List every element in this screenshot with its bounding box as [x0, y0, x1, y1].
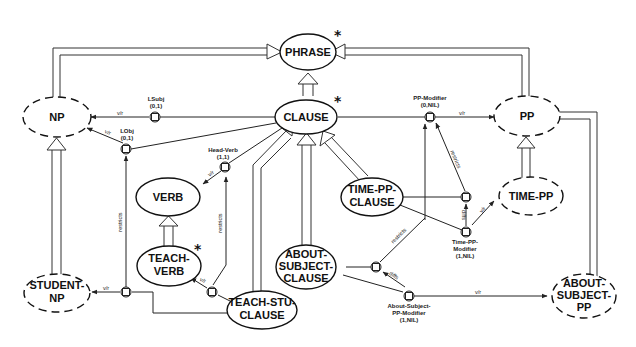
svg-text:NP: NP: [49, 111, 64, 123]
svg-text:PP: PP: [520, 110, 535, 122]
role-about-restrict: [371, 262, 381, 272]
svg-text:ABOUT-: ABOUT-: [285, 248, 328, 260]
star-icon: *: [334, 93, 342, 109]
role-lobj: [121, 144, 131, 154]
svg-text:CLAUSE: CLAUSE: [283, 272, 328, 284]
svg-text:(1,NIL): (1,NIL): [400, 317, 419, 323]
role-lsubj: [150, 112, 160, 122]
svg-text:diffs: diffs: [461, 210, 467, 220]
svg-text:Head-Verb: Head-Verb: [208, 147, 238, 153]
node-teach-verb: TEACH- VERB *: [137, 241, 202, 286]
node-about-subject-clause: ABOUT- SUBJECT- CLAUSE: [276, 245, 336, 289]
svg-text:PP-Modifier: PP-Modifier: [392, 310, 426, 316]
role-time-pp-modifier: [461, 227, 471, 237]
svg-text:restricts: restricts: [217, 213, 223, 233]
svg-text:Time-PP-: Time-PP-: [452, 239, 478, 245]
kl-one-diagram: PHRASE * CLAUSE * NP PP VERB TEACH- VERB…: [0, 0, 636, 347]
role-time-restrict: [461, 192, 471, 202]
node-teach-stu-clause: TEACH-STU- CLAUSE: [227, 291, 297, 329]
svg-text:ABOUT-: ABOUT-: [563, 277, 606, 289]
node-phrase: PHRASE *: [280, 27, 342, 70]
role-about-subject-pp-modifier: [404, 291, 414, 301]
svg-text:TEACH-STU-: TEACH-STU-: [228, 296, 296, 308]
svg-text:(0,NIL): (0,NIL): [421, 102, 440, 108]
svg-text:SUBJECT-: SUBJECT-: [557, 289, 612, 301]
svg-text:VERB: VERB: [153, 191, 184, 203]
svg-text:v/r: v/r: [117, 110, 123, 116]
role-head-verb: [220, 162, 230, 172]
svg-text:VERB: VERB: [154, 265, 185, 277]
node-pp: PP: [494, 96, 560, 136]
svg-text:v/r: v/r: [478, 205, 487, 214]
svg-text:PHRASE: PHRASE: [285, 46, 331, 58]
svg-text:v/r: v/r: [475, 289, 481, 295]
star-icon: *: [334, 27, 342, 43]
role-student: [121, 287, 131, 297]
svg-text:v/r: v/r: [459, 110, 465, 116]
node-time-pp-clause: TIME-PP- CLAUSE: [341, 178, 403, 216]
svg-text:CLAUSE: CLAUSE: [349, 196, 394, 208]
node-verb: VERB: [136, 178, 200, 216]
svg-text:restricts: restricts: [390, 226, 408, 244]
svg-text:STUDENT-: STUDENT-: [30, 279, 85, 291]
svg-text:About-Subject-: About-Subject-: [388, 303, 431, 309]
svg-text:CLAUSE: CLAUSE: [239, 309, 284, 321]
svg-text:LSubj: LSubj: [148, 96, 165, 102]
svg-text:(1,NIL): (1,NIL): [456, 253, 475, 259]
svg-text:LObj: LObj: [120, 128, 134, 134]
svg-text:(0,1): (0,1): [150, 103, 162, 109]
svg-text:PP: PP: [577, 301, 592, 313]
svg-text:restricts: restricts: [117, 212, 123, 232]
node-student-np: STUDENT- NP: [24, 274, 90, 312]
node-clause: CLAUSE *: [275, 93, 342, 134]
node-time-pp: TIME-PP: [499, 177, 563, 215]
svg-text:Modifier: Modifier: [453, 246, 477, 252]
svg-text:v/r: v/r: [103, 285, 109, 291]
node-np: NP: [23, 97, 91, 137]
svg-text:(0,1): (0,1): [121, 135, 133, 141]
svg-text:TIME-PP-: TIME-PP-: [348, 183, 397, 195]
node-about-subject-pp: ABOUT- SUBJECT- PP: [552, 274, 616, 318]
svg-text:SUBJECT-: SUBJECT-: [279, 260, 334, 272]
svg-text:(1,1): (1,1): [217, 154, 229, 160]
role-teach-verb: [207, 287, 217, 297]
svg-text:TEACH-: TEACH-: [148, 252, 190, 264]
role-pp-modifier: [425, 112, 435, 122]
svg-text:NP: NP: [49, 292, 64, 304]
svg-text:PP-Modifier: PP-Modifier: [413, 95, 447, 101]
svg-text:TIME-PP: TIME-PP: [509, 190, 554, 202]
svg-text:v/r: v/r: [104, 128, 112, 136]
svg-text:CLAUSE: CLAUSE: [283, 111, 328, 123]
star-icon: *: [194, 241, 202, 257]
